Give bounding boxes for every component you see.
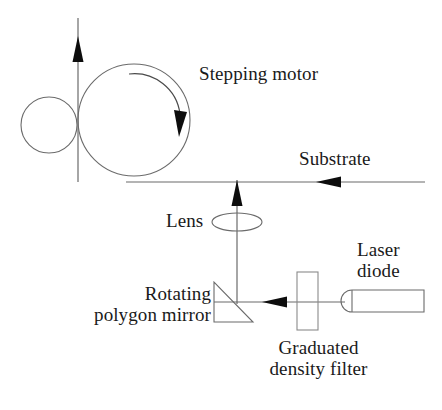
label-laser-diode: Laser diode — [357, 239, 400, 282]
beam-horizontal-arrowhead — [262, 297, 287, 308]
label-lens: Lens — [166, 210, 203, 231]
diagram-canvas: Stepping motor Substrate Lens Laser diod… — [0, 0, 442, 410]
pinch-roller-circle — [21, 97, 77, 153]
web-feed-arrowhead — [73, 36, 84, 62]
label-substrate: Substrate — [299, 148, 371, 169]
rotation-arc-arrowhead — [174, 110, 187, 137]
label-graduated-density-filter: Graduated density filter — [237, 337, 400, 380]
graduated-density-filter-rect — [297, 272, 318, 330]
laser-diode-body — [341, 290, 424, 312]
drum-roller-circle — [78, 64, 190, 176]
label-stepping-motor: Stepping motor — [199, 63, 318, 84]
substrate-arrowhead — [316, 177, 341, 188]
label-rotating-polygon-mirror: Rotating polygon mirror — [26, 283, 211, 326]
beam-vertical-arrowhead — [232, 180, 243, 206]
